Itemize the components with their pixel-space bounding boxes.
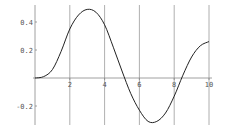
x-tick-label: 8 <box>172 81 176 89</box>
axes <box>33 5 212 125</box>
x-tick-label: 4 <box>102 81 106 89</box>
y-tick-label: 0.2 <box>20 47 33 55</box>
y-axis-ticks: 0.40.2-0.2 <box>16 19 37 111</box>
x-axis-ticks: 246810 <box>68 78 214 89</box>
data-curve <box>35 9 209 122</box>
x-tick-label: 6 <box>137 81 141 89</box>
y-tick-label: -0.2 <box>16 103 33 111</box>
x-tick-label: 10 <box>205 81 213 89</box>
y-tick-label: 0.4 <box>20 19 33 27</box>
x-tick-label: 2 <box>68 81 72 89</box>
line-chart: 246810 0.40.2-0.2 <box>0 0 229 131</box>
vertical-grid-lines <box>70 5 209 125</box>
